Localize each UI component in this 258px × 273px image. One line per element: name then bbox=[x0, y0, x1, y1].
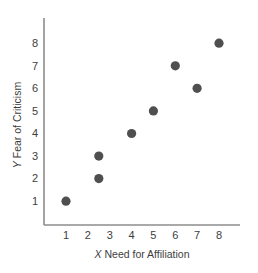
data-point bbox=[94, 174, 103, 183]
x-tick-label: 5 bbox=[150, 229, 156, 241]
plot-canvas: 8 7 6 5 4 3 2 1 1 2 3 4 5 6 7 8 bbox=[0, 0, 258, 273]
x-tick-label: 6 bbox=[172, 229, 178, 241]
y-tick-label: 8 bbox=[32, 37, 38, 49]
x-tick-label: 2 bbox=[85, 229, 91, 241]
x-axis-title-label: Need for Affiliation bbox=[104, 248, 189, 260]
y-tick-label: 7 bbox=[32, 60, 38, 72]
scatter-plot-figure: 8 7 6 5 4 3 2 1 1 2 3 4 5 6 7 8 bbox=[0, 0, 258, 273]
x-tick-label: 7 bbox=[194, 229, 200, 241]
y-axis-title: Y Fear of Criticism bbox=[11, 82, 23, 169]
data-point bbox=[127, 129, 136, 138]
x-tick-label: 8 bbox=[216, 229, 222, 241]
y-tick-label: 4 bbox=[32, 127, 38, 139]
y-tick-label: 6 bbox=[32, 82, 38, 94]
x-tick-label: 1 bbox=[63, 229, 69, 241]
x-axis-title: X Need for Affiliation bbox=[94, 248, 190, 260]
y-axis-title-label: Fear of Criticism bbox=[11, 82, 23, 159]
data-points-group bbox=[61, 39, 223, 206]
axes-group bbox=[44, 18, 240, 225]
x-tick-label: 4 bbox=[129, 229, 135, 241]
x-axis-title-text: X Need for Affiliation bbox=[94, 248, 190, 260]
y-axis-title-text: Y Fear of Criticism bbox=[11, 82, 23, 169]
data-point bbox=[149, 106, 158, 115]
data-point bbox=[193, 84, 202, 93]
y-tick-label: 3 bbox=[32, 150, 38, 162]
y-axis-tick-labels: 8 7 6 5 4 3 2 1 bbox=[32, 37, 38, 207]
x-tick-label: 3 bbox=[107, 229, 113, 241]
data-point bbox=[214, 39, 223, 48]
y-tick-label: 2 bbox=[32, 172, 38, 184]
data-point bbox=[94, 152, 103, 161]
data-point bbox=[61, 197, 70, 206]
data-point bbox=[171, 61, 180, 70]
y-tick-label: 1 bbox=[32, 195, 38, 207]
x-axis-tick-labels: 1 2 3 4 5 6 7 8 bbox=[63, 229, 222, 241]
y-tick-label: 5 bbox=[32, 105, 38, 117]
